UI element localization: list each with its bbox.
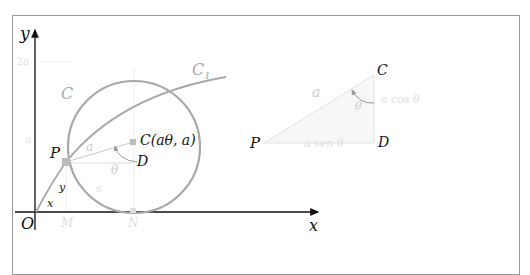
- origin-label: O: [21, 214, 34, 233]
- x-axis-label: x: [309, 216, 318, 235]
- angle-label-main: θ: [111, 163, 118, 177]
- triangle-vertex-d: D: [378, 134, 389, 150]
- segment-y-label: y: [59, 181, 65, 194]
- point-p-marker: [62, 158, 70, 166]
- center-marker: [130, 139, 136, 145]
- curve-label: C1: [192, 60, 211, 81]
- triangle-vertical-label: a cos θ: [381, 93, 420, 106]
- radius-segment: [66, 142, 133, 162]
- point-d-label: D: [137, 153, 148, 169]
- triangle-horizontal-label: a sen θ: [304, 137, 343, 150]
- foot-m-label: M: [61, 216, 73, 230]
- center-label: C(aθ, a): [140, 132, 196, 148]
- point-n-marker: [130, 208, 136, 213]
- triangle-vertex-c: C: [377, 62, 388, 78]
- radius-label: a: [86, 140, 93, 154]
- triangle-angle-label: θ: [355, 100, 362, 113]
- circle-label: C: [61, 84, 73, 103]
- y-tick-a: a: [25, 133, 32, 146]
- triangle-vertex-p: P: [250, 134, 260, 152]
- arc-length-label: s: [96, 182, 102, 195]
- segment-x-label: x: [47, 197, 53, 210]
- y-tick-2a: 2a: [16, 55, 30, 68]
- y-axis-label: y: [20, 23, 30, 43]
- foot-n-label: N: [128, 216, 139, 230]
- triangle-hyp-label: a: [312, 84, 320, 100]
- point-p-label: P: [50, 144, 60, 162]
